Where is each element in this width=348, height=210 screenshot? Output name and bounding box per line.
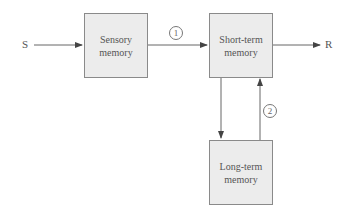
long-term-memory-label-line2: memory — [220, 173, 263, 186]
input-label-s: S — [22, 38, 28, 50]
short-term-memory-label-line1: Short-term — [219, 33, 262, 46]
marker-2-circled: 2 — [263, 104, 277, 118]
short-term-memory-label-line2: memory — [219, 46, 262, 59]
output-label-r: R — [325, 38, 332, 50]
long-term-memory-label-line1: Long-term — [220, 160, 263, 173]
marker-1-circled: 1 — [169, 26, 183, 40]
long-term-memory-box: Long-term memory — [209, 140, 273, 205]
sensory-memory-label-line1: Sensory — [99, 33, 132, 46]
short-term-memory-box: Short-term memory — [209, 13, 273, 78]
sensory-memory-box: Sensory memory — [84, 13, 148, 78]
sensory-memory-label-line2: memory — [99, 46, 132, 59]
